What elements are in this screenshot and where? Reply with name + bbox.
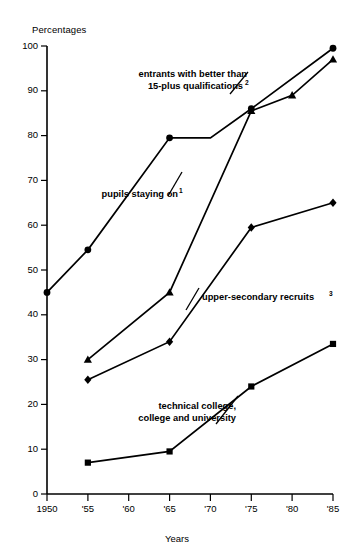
- triangle-marker: [165, 288, 173, 295]
- annotation-footnote: 3: [329, 290, 333, 297]
- x-tick-label: '60: [123, 503, 135, 514]
- y-axis-tick-labels: 100 90 80 70 60 50 40 30 20 10 0: [22, 40, 38, 499]
- y-tick-label: 20: [27, 398, 38, 409]
- annotation-line: upper-secondary recruits: [202, 292, 314, 302]
- x-axis-ticks: [47, 494, 333, 501]
- y-tick-label: 40: [27, 308, 38, 319]
- x-tick-label: '70: [204, 503, 216, 514]
- y-tick-label: 0: [33, 488, 38, 499]
- circle-marker: [44, 289, 51, 296]
- x-tick-label: '80: [286, 503, 298, 514]
- y-tick-label: 60: [27, 219, 38, 230]
- annotation-line: technical college,: [158, 401, 236, 411]
- y-tick-label: 100: [22, 40, 38, 51]
- x-tick-label: '85: [327, 503, 339, 514]
- square-marker: [330, 341, 336, 347]
- x-tick-label: 1950: [36, 503, 57, 514]
- square-marker: [248, 383, 254, 389]
- diamond-marker: [84, 375, 91, 384]
- annotation-upper-secondary: upper-secondary recruits 3: [202, 290, 333, 303]
- annotation-line: entrants with better than: [139, 69, 248, 79]
- triangle-marker: [329, 55, 337, 62]
- y-axis-ticks: [41, 46, 47, 494]
- svg-text:pupils staying on: pupils staying on: [102, 189, 179, 199]
- y-tick-label: 80: [27, 129, 38, 140]
- annotation-line: pupils staying on: [102, 189, 179, 199]
- annotation-footnote: 2: [245, 79, 249, 86]
- series-1: [84, 55, 337, 362]
- svg-text:college and university: college and university: [138, 413, 236, 423]
- y-tick-label: 10: [27, 443, 38, 454]
- svg-text:technical college,: technical college,: [158, 401, 236, 411]
- square-marker: [166, 448, 172, 454]
- x-axis-title: Years: [0, 533, 354, 544]
- svg-text:15-plus qualifications: 15-plus qualifications: [148, 81, 243, 91]
- annotation-footnote: 1: [179, 187, 183, 194]
- diamond-marker: [329, 199, 336, 208]
- y-tick-label: 50: [27, 264, 38, 275]
- y-tick-label: 30: [27, 353, 38, 364]
- chart-plot-area: 100 90 80 70 60 50 40 30 20 10 0 1950 '5: [0, 0, 354, 559]
- y-tick-label: 90: [27, 84, 38, 95]
- annotation-pupils: pupils staying on 1: [102, 187, 183, 200]
- svg-text:upper-secondary recruits: upper-secondary recruits: [202, 292, 314, 302]
- x-tick-label: '55: [82, 503, 94, 514]
- x-tick-label: '75: [245, 503, 257, 514]
- annotation-entrants: entrants with better than 15-plus qualif…: [139, 69, 249, 91]
- annotation-line: college and university: [138, 413, 236, 423]
- x-tick-label: '65: [163, 503, 175, 514]
- svg-text:entrants with better than: entrants with better than: [139, 69, 248, 79]
- annotation-line: 15-plus qualifications: [148, 81, 243, 91]
- square-marker: [85, 460, 91, 466]
- series-line: [88, 59, 333, 359]
- y-tick-label: 70: [27, 174, 38, 185]
- x-axis-tick-labels: 1950 '55 '60 '65 '70 '75 '80 '85: [36, 503, 339, 514]
- circle-marker: [330, 45, 337, 52]
- annotation-technical-college: technical college, college and universit…: [138, 401, 236, 423]
- circle-marker: [166, 134, 173, 141]
- line-chart: Percentages 100 90 80 70 60 50: [0, 0, 354, 559]
- circle-marker: [84, 246, 91, 253]
